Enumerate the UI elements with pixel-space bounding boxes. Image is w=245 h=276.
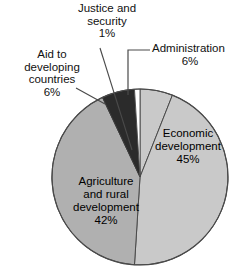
slice-label-economic-line1: Economic: [146, 127, 230, 140]
slice-label-agriculture-percent: 42%: [56, 214, 156, 227]
slice-label-aid-to-developing-countries: Aid to developing countries 6%: [6, 48, 98, 98]
slice-label-administration-line1: Administration: [152, 42, 244, 55]
slice-label-administration-percent: 6%: [152, 55, 228, 68]
leader-line-administration: [128, 50, 150, 95]
slice-label-aid-percent: 6%: [6, 86, 98, 99]
slice-label-agriculture-rural-development: Agriculture and rural development 42%: [56, 175, 156, 227]
slice-label-justice-percent: 1%: [54, 27, 160, 40]
pie-chart: Justice and security 1% Administration 6…: [0, 0, 245, 276]
slice-label-aid-line3: countries: [6, 73, 98, 86]
slice-label-economic-development: Economic development 45%: [146, 127, 230, 166]
slice-label-administration: Administration 6%: [152, 42, 244, 67]
slice-label-aid-line2: developing: [6, 61, 98, 74]
slice-label-agriculture-line3: development: [56, 201, 156, 214]
slice-label-agriculture-line2: and rural: [56, 188, 156, 201]
slice-label-agriculture-line1: Agriculture: [56, 175, 156, 188]
slice-label-economic-line2: development: [146, 140, 230, 153]
slice-label-aid-line1: Aid to: [6, 48, 98, 61]
slice-label-economic-percent: 45%: [146, 153, 230, 166]
slice-label-justice-and-security: Justice and security 1%: [54, 2, 160, 40]
slice-label-justice-line1: Justice and: [54, 2, 160, 15]
slice-label-justice-line2: security: [54, 15, 160, 28]
